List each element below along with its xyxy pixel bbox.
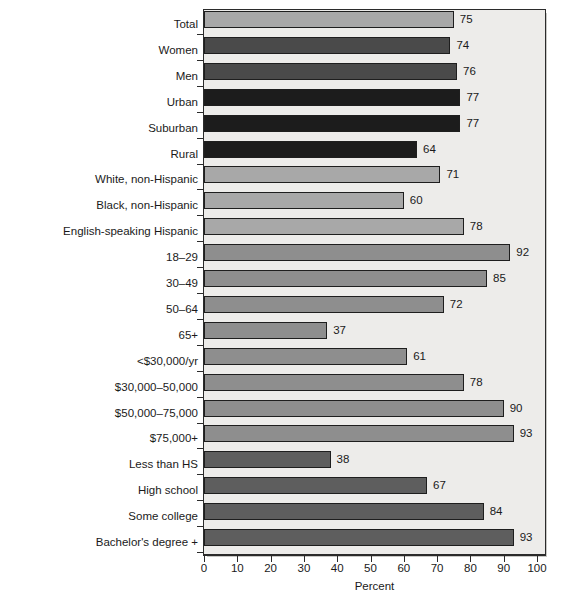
bar-value-label: 84 xyxy=(490,503,503,520)
bar xyxy=(204,400,504,417)
bar-row: Rural64 xyxy=(0,141,575,167)
bar-category-label: 18–29 xyxy=(166,244,198,270)
bar-value-label: 76 xyxy=(463,63,476,80)
bar-category-label: $50,000–75,000 xyxy=(115,400,198,426)
bar xyxy=(204,218,464,235)
bar-value-label: 93 xyxy=(520,425,533,442)
bar-row: Bachelor's degree +93 xyxy=(0,529,575,555)
bar xyxy=(204,141,417,158)
bar-row: High school67 xyxy=(0,477,575,503)
bar-category-label: Women xyxy=(159,37,198,63)
bar-category-label: $75,000+ xyxy=(150,425,198,451)
bar-value-label: 71 xyxy=(446,166,459,183)
bar-value-label: 78 xyxy=(470,218,483,235)
bar-row: 50–6472 xyxy=(0,296,575,322)
y-axis-tick xyxy=(197,371,204,372)
bar-category-label: White, non-Hispanic xyxy=(95,166,198,192)
bar xyxy=(204,270,487,287)
y-axis-tick xyxy=(197,319,204,320)
bar-row: White, non-Hispanic71 xyxy=(0,166,575,192)
y-axis-tick xyxy=(197,60,204,61)
bar xyxy=(204,63,457,80)
bar-row: Urban77 xyxy=(0,89,575,115)
y-axis-tick xyxy=(197,164,204,165)
bar xyxy=(204,11,454,28)
bar xyxy=(204,348,407,365)
bar xyxy=(204,451,331,468)
bar-value-label: 93 xyxy=(520,529,533,546)
bar-row: Suburban77 xyxy=(0,115,575,141)
bar-category-label: 65+ xyxy=(178,322,198,348)
bar-value-label: 37 xyxy=(333,322,346,339)
bar-row: $75,000+93 xyxy=(0,425,575,451)
bar-row: Some college84 xyxy=(0,503,575,529)
bar xyxy=(204,192,404,209)
bar-row: <$30,000/yr61 xyxy=(0,348,575,374)
bar-row: Less than HS38 xyxy=(0,451,575,477)
bar-value-label: 77 xyxy=(466,115,479,132)
bar-category-label: 50–64 xyxy=(166,296,198,322)
bar xyxy=(204,477,427,494)
bar-category-label: High school xyxy=(138,477,198,503)
bar-category-label: Black, non-Hispanic xyxy=(96,192,198,218)
bar xyxy=(204,374,464,391)
y-axis-tick xyxy=(197,345,204,346)
bar xyxy=(204,322,327,339)
bar-row: Women74 xyxy=(0,37,575,63)
y-axis-tick xyxy=(197,112,204,113)
bar-value-label: 75 xyxy=(460,11,473,28)
bar-value-label: 64 xyxy=(423,141,436,158)
y-axis-tick xyxy=(197,267,204,268)
bar xyxy=(204,425,514,442)
bar-row: $50,000–75,00090 xyxy=(0,400,575,426)
y-axis-tick xyxy=(197,552,204,553)
x-axis-title: Percent xyxy=(203,580,546,592)
bar-category-label: Men xyxy=(176,63,198,89)
bar-category-label: Bachelor's degree + xyxy=(96,529,198,555)
bar-value-label: 38 xyxy=(337,451,350,468)
bar-row: Total75 xyxy=(0,11,575,37)
bar xyxy=(204,503,484,520)
bar-category-label: $30,000–50,000 xyxy=(115,374,198,400)
bar-rows-container: Total75Women74Men76Urban77Suburban77Rura… xyxy=(0,0,575,610)
bar-value-label: 72 xyxy=(450,296,463,313)
bar xyxy=(204,529,514,546)
bar xyxy=(204,166,440,183)
bar-row: Black, non-Hispanic60 xyxy=(0,192,575,218)
y-axis-tick xyxy=(197,34,204,35)
x-axis-line xyxy=(203,555,546,556)
bar-category-label: Urban xyxy=(167,89,198,115)
bar-row: $30,000–50,00078 xyxy=(0,374,575,400)
y-axis-tick xyxy=(197,448,204,449)
bar-category-label: 30–49 xyxy=(166,270,198,296)
y-axis-tick xyxy=(197,215,204,216)
bar-row: 65+37 xyxy=(0,322,575,348)
y-axis-tick xyxy=(197,241,204,242)
y-axis-tick xyxy=(197,500,204,501)
bar-value-label: 60 xyxy=(410,192,423,209)
bar-value-label: 67 xyxy=(433,477,446,494)
bar-value-label: 61 xyxy=(413,348,426,365)
bar-value-label: 74 xyxy=(456,37,469,54)
bar xyxy=(204,244,510,261)
y-axis-tick xyxy=(197,86,204,87)
y-axis-tick xyxy=(197,138,204,139)
bar-value-label: 85 xyxy=(493,270,506,287)
bar-category-label: <$30,000/yr xyxy=(137,348,198,374)
bar xyxy=(204,89,460,106)
bar-row: 30–4985 xyxy=(0,270,575,296)
bar-row: Men76 xyxy=(0,63,575,89)
y-axis-tick xyxy=(197,397,204,398)
bar-category-label: English-speaking Hispanic xyxy=(63,218,198,244)
bar-category-label: Total xyxy=(174,11,198,37)
bar-value-label: 90 xyxy=(510,400,523,417)
bar-category-label: Less than HS xyxy=(129,451,198,477)
bar-value-label: 78 xyxy=(470,374,483,391)
bar-row: 18–2992 xyxy=(0,244,575,270)
x-axis-tick-label: 100 xyxy=(517,562,557,574)
bar-chart: Total75Women74Men76Urban77Suburban77Rura… xyxy=(0,0,575,610)
bar-value-label: 92 xyxy=(516,244,529,261)
y-axis-tick xyxy=(197,423,204,424)
bar-row: English-speaking Hispanic78 xyxy=(0,218,575,244)
y-axis-tick xyxy=(197,189,204,190)
